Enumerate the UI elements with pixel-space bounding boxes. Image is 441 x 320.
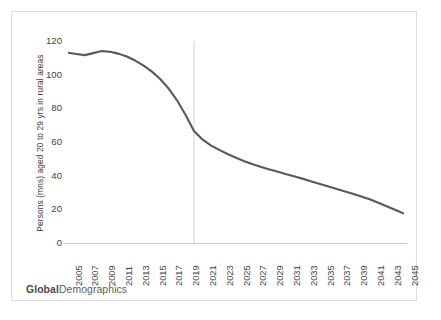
x-tick-label: 2009	[107, 244, 118, 286]
x-tick-label: 2025	[242, 244, 253, 286]
y-tick-label: 20	[40, 204, 62, 214]
x-tick-label: 2045	[410, 244, 421, 286]
y-tick-label: 0	[40, 238, 62, 248]
x-tick-label: 2007	[90, 244, 101, 286]
x-tick-label: 2033	[309, 244, 320, 286]
x-tick-label: 2041	[376, 244, 387, 286]
y-tick-label: 100	[40, 70, 62, 80]
plot-area	[68, 41, 404, 243]
x-tick-label: 2029	[275, 244, 286, 286]
x-tick-label: 2039	[359, 244, 370, 286]
y-tick-label: 80	[40, 103, 62, 113]
x-tick-label: 2019	[191, 244, 202, 286]
plot-svg	[68, 41, 404, 243]
x-tick-label: 2035	[326, 244, 337, 286]
x-tick-label: 2013	[141, 244, 152, 286]
x-axis-tick-labels: 2005200720092011201320152017201920212023…	[68, 246, 404, 288]
x-tick-label: 2005	[74, 244, 85, 286]
y-tick-label: 60	[40, 137, 62, 147]
x-tick-label: 2027	[258, 244, 269, 286]
x-tick-label: 2031	[292, 244, 303, 286]
x-tick-label: 2011	[124, 244, 135, 286]
x-tick-label: 2021	[208, 244, 219, 286]
x-tick-label: 2017	[174, 244, 185, 286]
y-tick-label: 120	[40, 36, 62, 46]
brand-strong-text: Global	[26, 284, 59, 295]
brand-light-text: Demographics	[59, 284, 127, 295]
y-tick-label: 40	[40, 171, 62, 181]
x-tick-label: 2023	[225, 244, 236, 286]
y-axis-tick-labels: 0 20 40 60 80 100 120	[40, 0, 62, 320]
x-tick-label: 2043	[393, 244, 404, 286]
brand-watermark: GlobalDemographics	[26, 284, 127, 295]
x-tick-label: 2015	[158, 244, 169, 286]
chart-figure: Persons (mns) aged 20 to 29 yrs in rural…	[0, 0, 441, 320]
series-line	[68, 51, 404, 213]
x-tick-label: 2037	[342, 244, 353, 286]
